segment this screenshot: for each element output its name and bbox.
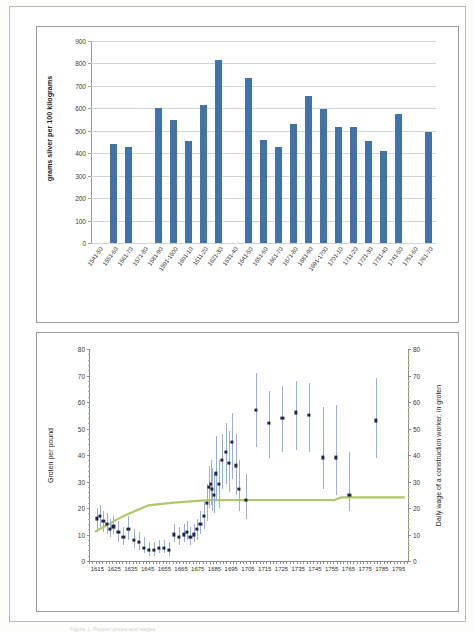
bar-chart-bar[interactable] bbox=[305, 96, 312, 243]
bar-chart-bar[interactable] bbox=[335, 127, 342, 243]
scatter-chart-y-tick-right-mark bbox=[408, 561, 411, 562]
scatter-chart-data-point[interactable] bbox=[172, 533, 175, 536]
scatter-chart-data-point[interactable] bbox=[142, 546, 145, 549]
scatter-chart-data-point[interactable] bbox=[167, 549, 170, 552]
scatter-chart-data-point[interactable] bbox=[177, 536, 180, 539]
bar-chart-bar[interactable] bbox=[245, 78, 252, 243]
bar-chart-bar[interactable] bbox=[395, 114, 402, 244]
scatter-chart-data-point[interactable] bbox=[334, 456, 337, 459]
scatter-chart-data-point[interactable] bbox=[281, 416, 284, 419]
scatter-chart-data-point[interactable] bbox=[196, 528, 199, 531]
scatter-chart-y-tick-left-mark bbox=[87, 455, 90, 456]
scatter-chart-x-tick-mark bbox=[380, 561, 381, 564]
scatter-chart-data-point[interactable] bbox=[237, 488, 240, 491]
bar-chart-bar[interactable] bbox=[350, 127, 357, 243]
document-frame: grams silver per 100 kilograms 010020030… bbox=[9, 6, 466, 622]
bar-chart-bar[interactable] bbox=[320, 109, 327, 243]
scatter-chart-data-point[interactable] bbox=[117, 530, 120, 533]
bar-chart-y-tick-label: 100 bbox=[75, 217, 86, 224]
scatter-chart-data-point[interactable] bbox=[308, 414, 311, 417]
scatter-chart-y-minor-tick-right bbox=[408, 476, 410, 477]
scatter-chart-x-tick-mark bbox=[337, 561, 338, 564]
scatter-chart-right-axis-label: Daily wage of a construction worker, in … bbox=[432, 349, 446, 561]
scatter-chart-data-point[interactable] bbox=[217, 483, 220, 486]
bar-chart-bar[interactable] bbox=[170, 120, 177, 243]
scatter-chart-x-tick-mark bbox=[230, 561, 231, 564]
scatter-chart-x-tick-mark bbox=[404, 561, 405, 564]
bar-chart-y-tick-label: 400 bbox=[75, 150, 86, 157]
scatter-chart-x-axis-labels: 1615162516351645165516651675168516951705… bbox=[89, 566, 407, 578]
scatter-chart-data-point[interactable] bbox=[105, 522, 108, 525]
scatter-chart-x-tick-label: 1705 bbox=[241, 566, 254, 572]
scatter-chart-data-point[interactable] bbox=[192, 533, 195, 536]
scatter-chart-x-tick-mark bbox=[122, 561, 123, 564]
bar-chart-bar[interactable] bbox=[185, 141, 192, 243]
scatter-chart-data-point[interactable] bbox=[231, 440, 234, 443]
scatter-chart-data-point[interactable] bbox=[214, 472, 217, 475]
construction-wage-line bbox=[95, 497, 405, 531]
bar-chart-bar[interactable] bbox=[425, 132, 432, 243]
scatter-chart-data-point[interactable] bbox=[202, 514, 205, 517]
scatter-chart-data-point[interactable] bbox=[227, 461, 230, 464]
scatter-chart-x-tick-mark bbox=[210, 561, 211, 564]
bar-chart-x-label-slot: 1731-40 bbox=[376, 245, 391, 307]
scatter-chart-data-point[interactable] bbox=[375, 419, 378, 422]
scatter-chart-data-point[interactable] bbox=[348, 493, 351, 496]
scatter-chart-data-point[interactable] bbox=[122, 536, 125, 539]
scatter-chart-x-tick-mark bbox=[290, 561, 291, 564]
scatter-chart-data-point[interactable] bbox=[267, 422, 270, 425]
scatter-chart-y-minor-tick-left bbox=[88, 397, 90, 398]
scatter-chart-data-point[interactable] bbox=[112, 525, 115, 528]
bar-chart-y-tick-label: 0 bbox=[82, 240, 86, 247]
scatter-chart-x-tick-mark bbox=[169, 561, 170, 564]
scatter-chart-data-point[interactable] bbox=[152, 549, 155, 552]
scatter-chart-data-point[interactable] bbox=[98, 514, 101, 517]
scatter-chart-data-point[interactable] bbox=[321, 456, 324, 459]
bar-chart-x-label-slot: 1711-20 bbox=[346, 245, 361, 307]
scatter-chart-right-axis-label-text: Daily wage of a construction worker, in … bbox=[436, 384, 443, 525]
bar-chart-x-label-slot: 1571-80 bbox=[136, 245, 151, 307]
scatter-chart-data-point[interactable] bbox=[185, 530, 188, 533]
scatter-chart-data-point[interactable] bbox=[254, 408, 257, 411]
bar-chart-x-label-slot: 1581-90 bbox=[151, 245, 166, 307]
scatter-chart-y-tick-right-mark bbox=[408, 429, 411, 430]
bar-chart-bar[interactable] bbox=[290, 124, 297, 243]
scatter-chart-data-point[interactable] bbox=[224, 451, 227, 454]
scatter-chart-x-tick-mark bbox=[317, 561, 318, 564]
scatter-chart-y-minor-tick-right bbox=[408, 540, 410, 541]
scatter-chart-data-point[interactable] bbox=[132, 538, 135, 541]
scatter-chart-data-point[interactable] bbox=[127, 528, 130, 531]
scatter-chart-data-point[interactable] bbox=[199, 522, 202, 525]
bar-chart-bar[interactable] bbox=[365, 141, 372, 243]
bar-chart-bar[interactable] bbox=[275, 147, 282, 243]
scatter-chart-data-point[interactable] bbox=[244, 498, 247, 501]
scatter-chart-x-tick-mark bbox=[129, 561, 130, 564]
scatter-chart-data-point[interactable] bbox=[162, 546, 165, 549]
scatter-chart-y-minor-tick-right bbox=[408, 513, 410, 514]
scatter-chart-y-minor-tick-right bbox=[408, 519, 410, 520]
bar-chart-bar[interactable] bbox=[110, 144, 117, 243]
bar-chart-y-tick-label: 600 bbox=[75, 105, 86, 112]
bar-chart-bar[interactable] bbox=[380, 151, 387, 243]
scatter-chart-y-tick-left-label: 30 bbox=[78, 478, 85, 485]
bar-chart-x-label-slot: 1561-70 bbox=[121, 245, 136, 307]
scatter-chart-data-point[interactable] bbox=[137, 541, 140, 544]
bar-chart-bar[interactable] bbox=[215, 60, 222, 243]
bar-chart-bar[interactable] bbox=[155, 108, 162, 243]
bar-chart-bar[interactable] bbox=[125, 147, 132, 244]
scatter-chart-y-minor-tick-right bbox=[408, 460, 410, 461]
scatter-chart-data-point[interactable] bbox=[147, 549, 150, 552]
scatter-chart-x-tick-label: 1725 bbox=[275, 566, 288, 572]
scatter-chart-data-point[interactable] bbox=[294, 411, 297, 414]
scatter-chart-data-point[interactable] bbox=[157, 546, 160, 549]
bar-chart-x-label-slot: 1601-10 bbox=[181, 245, 196, 307]
bar-chart-bar[interactable] bbox=[200, 105, 207, 243]
scatter-chart-y-minor-tick-left bbox=[88, 487, 90, 488]
scatter-chart-data-point[interactable] bbox=[234, 464, 237, 467]
bar-chart-gridline bbox=[91, 243, 436, 244]
bar-chart-bar[interactable] bbox=[260, 140, 267, 243]
scatter-chart-x-tick-mark bbox=[213, 561, 214, 564]
scatter-chart-x-tick-label: 1785 bbox=[375, 566, 388, 572]
scatter-chart-data-point[interactable] bbox=[221, 459, 224, 462]
scatter-chart-y-minor-tick-left bbox=[88, 370, 90, 371]
